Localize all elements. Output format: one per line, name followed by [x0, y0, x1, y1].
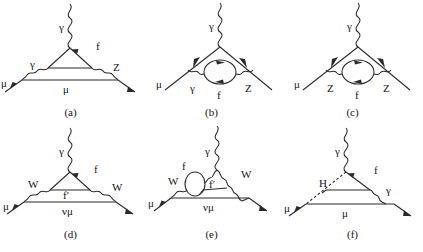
arrow-head-f — [72, 173, 79, 178]
label-boson-right: W — [112, 181, 123, 193]
label-neutrino: νμ — [62, 205, 73, 217]
label-neutrino: νμ — [203, 201, 214, 213]
arrow-head-incoming-mu — [10, 82, 17, 89]
boson-line-left — [24, 190, 50, 202]
arrow-head-incoming-mu — [12, 204, 19, 211]
label-boson-right: Z — [245, 82, 252, 94]
photon-line-top — [68, 4, 72, 48]
label-fermion-f: f — [94, 163, 98, 175]
arrow-head-incoming-mu — [294, 206, 301, 213]
label-fermion-loop: f — [217, 89, 221, 101]
photon-line-top — [68, 128, 72, 172]
fermion-line-left — [48, 48, 70, 68]
panel-caption-f: (f) — [282, 228, 423, 240]
label-boson-left: Z — [327, 82, 334, 94]
diagram-panel-d: γ f W f′ W μ νμ (d) — [0, 126, 141, 252]
label-lepton-incoming: μ — [294, 78, 300, 90]
diagram-panel-c: γ μ Z f Z (c) — [282, 0, 423, 126]
arrow-head-incoming-mu — [159, 201, 166, 208]
arrow-head-outgoing-mu — [259, 205, 267, 211]
label-boson-right: Z — [383, 82, 390, 94]
label-photon-top: γ — [346, 20, 352, 32]
arrow-head-left-lepton — [331, 57, 338, 68]
label-boson-right: Z — [113, 61, 120, 73]
photon-line-top — [356, 3, 360, 47]
label-photon-top: γ — [58, 21, 64, 33]
label-boson-left: γ — [189, 82, 195, 94]
arrow-head-outgoing-mu — [127, 87, 135, 93]
panel-caption-e: (e) — [141, 228, 282, 240]
label-boson-left: W — [28, 178, 39, 190]
label-lepton-incoming: μ — [156, 78, 162, 90]
label-inner-fermion: f′ — [209, 178, 215, 190]
diagram-panel-e: γ f W f′ W μ νμ (e) — [141, 126, 282, 252]
photon-line-top — [215, 126, 219, 170]
label-lepton-bottom: μ — [342, 207, 348, 219]
diagram-panel-a: γ f γ Z μ μ (a) — [0, 0, 141, 126]
diagram-panel-b: γ μ γ f Z (b) — [141, 0, 282, 126]
label-photon-top: γ — [208, 20, 214, 32]
fermion-loop-bubble — [185, 172, 205, 196]
label-photon-top: γ — [334, 145, 340, 157]
label-boson-left: W — [168, 175, 179, 187]
photon-line-top — [344, 128, 348, 172]
label-fermion-loop: f — [355, 89, 359, 101]
label-boson-left: γ — [29, 58, 35, 70]
arrow-head-loop-top — [354, 61, 363, 65]
panel-caption-d: (d) — [0, 228, 141, 240]
label-inner-fermion: f′ — [63, 189, 69, 201]
label-fermion-f: f — [182, 160, 186, 172]
label-boson-right: W — [241, 168, 252, 180]
label-lepton-bottom: μ — [63, 83, 69, 95]
label-photon-top: γ — [58, 145, 64, 157]
boson-line-left — [22, 68, 48, 80]
boson-line-right — [217, 170, 236, 194]
panel-caption-a: (a) — [0, 106, 141, 118]
boson-line-right — [370, 190, 382, 202]
label-lepton-incoming: μ — [3, 200, 9, 212]
panel-caption-c: (c) — [282, 106, 423, 118]
arrow-head-outgoing-mu — [403, 211, 411, 217]
boson-line-left — [171, 190, 187, 198]
fermion-line-right — [70, 48, 92, 68]
arrow-head-left-lepton — [193, 57, 200, 68]
fermion-line-left — [50, 172, 70, 190]
label-fermion-f: f — [374, 164, 378, 176]
diagram-panel-f: γ f H γ μ μ (f) — [282, 126, 423, 252]
label-boson-right: γ — [385, 184, 391, 196]
label-lepton-incoming: μ — [148, 197, 154, 209]
photon-line-top — [218, 3, 222, 47]
label-fermion-f: f — [96, 40, 100, 52]
feynman-diagram-figure: γ f γ Z μ μ (a) γ μ γ — [0, 0, 423, 252]
label-higgs: H — [319, 177, 327, 189]
label-photon-top: γ — [204, 145, 210, 157]
label-lepton-incoming: μ — [1, 77, 7, 89]
panel-caption-b: (b) — [141, 106, 282, 118]
arrow-head-outgoing-mu — [125, 209, 133, 215]
arrow-head-loop-top — [216, 61, 225, 65]
label-lepton-incoming: μ — [284, 202, 290, 214]
